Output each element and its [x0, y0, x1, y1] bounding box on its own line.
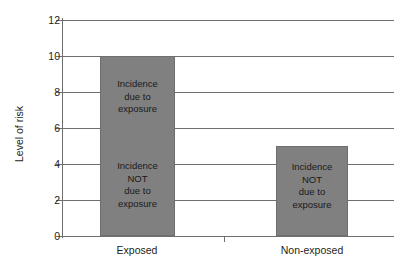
y-tick-label-12: 12	[20, 15, 60, 26]
y-tick-label-2: 2	[20, 195, 60, 206]
gridline-0	[62, 236, 394, 237]
x-axis-label-exposed: Exposed	[77, 244, 197, 256]
y-tick-label-10: 10	[20, 51, 60, 62]
bar-exposed	[100, 56, 175, 236]
y-axis-title: Level of risk	[13, 79, 25, 189]
bar-non-exposed	[276, 146, 348, 236]
bar-chart: 121086420 Level of risk Incidence due to…	[0, 0, 407, 276]
x-axis-divider-tick	[224, 236, 225, 242]
y-tick-label-4: 4	[20, 159, 60, 170]
gridline-12	[62, 20, 394, 21]
y-tick-label-6: 6	[20, 123, 60, 134]
x-axis-label-non-exposed: Non-exposed	[252, 244, 372, 256]
y-tick-label-8: 8	[20, 87, 60, 98]
y-tick-label-0: 0	[20, 231, 60, 242]
